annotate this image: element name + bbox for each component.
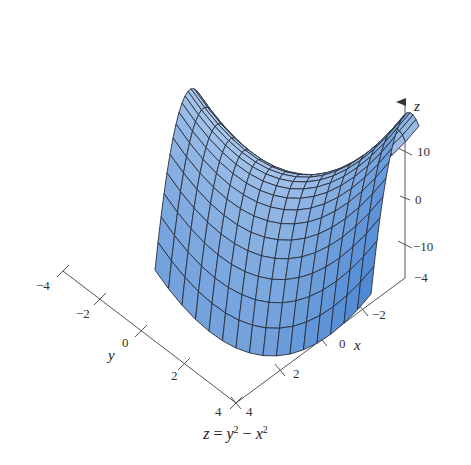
z-tick-0: 0 — [415, 192, 422, 208]
y-tick-neg2: −2 — [76, 306, 90, 322]
y-tick-mark — [57, 265, 69, 277]
saddle-surface-plot — [0, 0, 471, 465]
y-tick-mark — [230, 397, 242, 409]
equation-caption: z = y2 − x2 — [0, 424, 471, 443]
y-tick-2: 2 — [171, 368, 178, 384]
y-tick-4: 4 — [215, 404, 222, 420]
x-tick-neg2: −2 — [372, 307, 386, 323]
x-tick-4: 4 — [246, 404, 253, 420]
x-axis-label: x — [354, 337, 361, 354]
x-tick-mark — [275, 364, 285, 376]
x-tick-neg4: −4 — [414, 270, 428, 286]
z-axis-label: z — [414, 98, 420, 115]
y-tick-0: 0 — [122, 335, 129, 351]
x-tick-0: 0 — [339, 336, 346, 352]
y-tick-neg4: −4 — [36, 278, 50, 294]
z-tick-10: 10 — [417, 144, 430, 160]
y-tick-mark — [94, 293, 106, 305]
x-tick-2: 2 — [293, 366, 300, 382]
z-tick-neg10: −10 — [413, 239, 433, 255]
y-axis-label: y — [108, 347, 115, 364]
